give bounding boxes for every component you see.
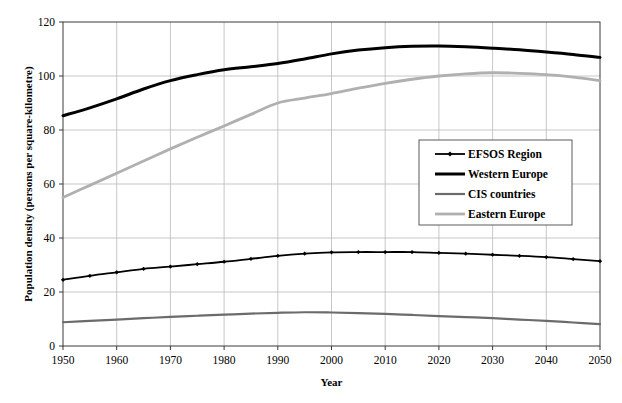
series-marker bbox=[437, 251, 441, 255]
series-marker bbox=[491, 253, 495, 257]
x-tickmarks bbox=[63, 346, 600, 350]
y-tick-label: 120 bbox=[38, 16, 56, 28]
series-marker bbox=[544, 255, 548, 259]
x-tick-label: 2050 bbox=[589, 354, 612, 366]
y-tick-label: 40 bbox=[44, 232, 56, 244]
y-tick-label: 0 bbox=[49, 340, 55, 352]
x-tick-label: 1980 bbox=[213, 354, 236, 366]
legend-label: CIS countries bbox=[468, 188, 536, 200]
series-marker bbox=[329, 250, 333, 254]
x-tick-label: 1970 bbox=[159, 354, 182, 366]
series-marker bbox=[464, 252, 468, 256]
legend-label: Eastern Europe bbox=[468, 208, 545, 221]
x-tick-labels: 1950196019701980199020002010202020302040… bbox=[52, 354, 612, 366]
x-tick-label: 2040 bbox=[535, 354, 558, 366]
series-marker bbox=[383, 250, 387, 254]
series-marker bbox=[517, 254, 521, 258]
legend-label: EFSOS Region bbox=[468, 148, 542, 161]
series-marker bbox=[571, 257, 575, 261]
series-marker bbox=[195, 262, 199, 266]
x-tick-label: 2020 bbox=[427, 354, 450, 366]
series-marker bbox=[598, 259, 602, 263]
y-tick-label: 80 bbox=[44, 124, 56, 136]
x-tick-label: 2010 bbox=[374, 354, 397, 366]
y-tickmarks bbox=[59, 22, 63, 346]
series-marker bbox=[222, 260, 226, 264]
y-tick-labels: 020406080100120 bbox=[38, 16, 56, 352]
series-marker bbox=[168, 265, 172, 269]
y-tick-label: 100 bbox=[38, 70, 56, 82]
series-marker bbox=[303, 252, 307, 256]
chart-legend: EFSOS RegionWestern EuropeCIS countriesE… bbox=[419, 140, 572, 225]
series-marker bbox=[88, 274, 92, 278]
x-tick-label: 1950 bbox=[52, 354, 75, 366]
series-marker bbox=[410, 250, 414, 254]
x-tick-label: 1960 bbox=[105, 354, 128, 366]
y-axis-title: Population density (persons per square-k… bbox=[22, 66, 35, 302]
x-axis-title: Year bbox=[321, 376, 343, 388]
chart-canvas: 020406080100120 195019601970198019902000… bbox=[0, 0, 622, 403]
x-tick-label: 2030 bbox=[481, 354, 504, 366]
population-density-chart: 020406080100120 195019601970198019902000… bbox=[0, 0, 622, 403]
series-marker bbox=[141, 267, 145, 271]
series-marker bbox=[356, 250, 360, 254]
x-tick-label: 1990 bbox=[266, 354, 289, 366]
series-marker bbox=[115, 270, 119, 274]
series-marker bbox=[276, 254, 280, 258]
y-tick-label: 20 bbox=[44, 286, 56, 298]
legend-label: Western Europe bbox=[468, 168, 548, 181]
series-marker bbox=[249, 257, 253, 261]
series-marker bbox=[61, 278, 65, 282]
y-tick-label: 60 bbox=[44, 178, 56, 190]
x-tick-label: 2000 bbox=[320, 354, 343, 366]
